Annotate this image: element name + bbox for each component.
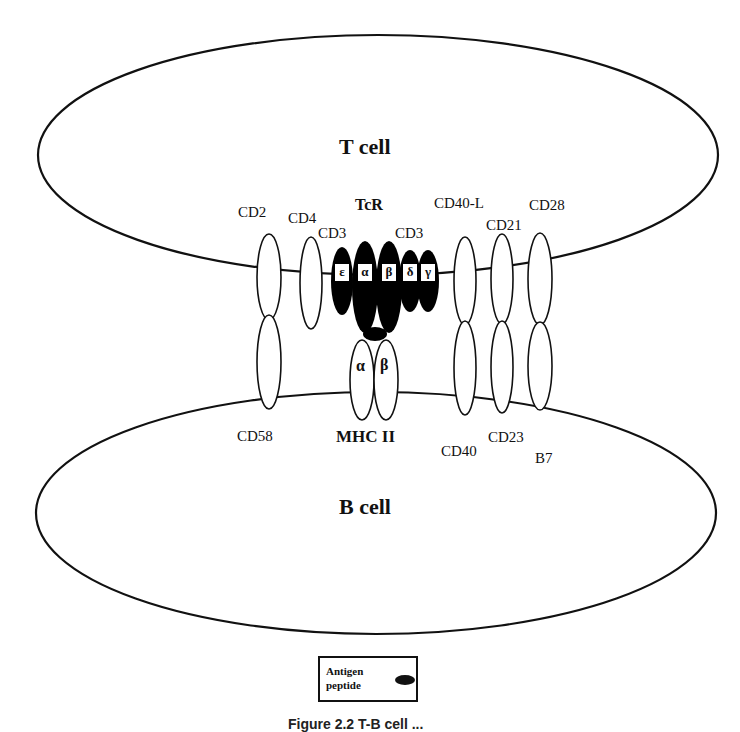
beta-chain-label: β — [382, 264, 396, 281]
epsilon-chain-label: ε — [335, 264, 349, 281]
b-cell-label: B cell — [339, 496, 391, 518]
cd3-delta-chain — [399, 250, 421, 312]
cd21-label: CD21 — [486, 218, 522, 233]
mhc2-alpha-chain — [350, 340, 374, 420]
b7-label: B7 — [535, 451, 553, 466]
cd23-label: CD23 — [488, 430, 524, 445]
cd23-molecule — [491, 321, 513, 413]
mhc2-beta-chain — [374, 340, 398, 420]
cd4-label: CD4 — [288, 211, 316, 226]
cd40-molecule — [454, 321, 476, 415]
gamma-chain-label: γ — [421, 264, 435, 281]
cd40l-label: CD40-L — [434, 196, 484, 211]
mhc2-label: MHC II — [336, 428, 395, 445]
t-cell-label: T cell — [339, 136, 391, 158]
legend-line-2: peptide — [326, 678, 363, 692]
cd28-label: CD28 — [529, 198, 565, 213]
delta-chain-label: δ — [403, 264, 417, 281]
alpha-chain-label: α — [358, 264, 372, 281]
cd58-molecule — [257, 315, 281, 409]
cd3-right-label: CD3 — [395, 226, 423, 241]
antigen-peptide — [363, 327, 387, 341]
legend-box: Antigen peptide — [318, 656, 418, 702]
b7-molecule — [528, 322, 552, 410]
tcr-beta-chain — [376, 241, 402, 333]
cd58-label: CD58 — [237, 429, 273, 444]
mhc2-beta-label: β — [380, 357, 388, 373]
tcr-alpha-chain — [352, 241, 378, 333]
cd3-epsilon-chain — [331, 247, 353, 315]
cd28-molecule — [528, 233, 552, 325]
cd21-molecule — [491, 234, 513, 324]
cd40-label: CD40 — [441, 444, 477, 459]
cd3-left-label: CD3 — [318, 226, 346, 241]
tcr-label: TcR — [355, 197, 383, 213]
cd2-molecule — [257, 234, 281, 320]
cd4-molecule — [300, 237, 322, 329]
cd40l-molecule — [454, 237, 476, 325]
legend-text: Antigen peptide — [326, 664, 363, 692]
cd2-label: CD2 — [238, 205, 266, 220]
figure-caption: Figure 2.2 T-B cell ... — [288, 716, 423, 732]
mhc2-alpha-label: α — [356, 358, 365, 374]
antigen-peptide-legend-icon — [395, 675, 415, 685]
legend-line-1: Antigen — [326, 664, 363, 678]
